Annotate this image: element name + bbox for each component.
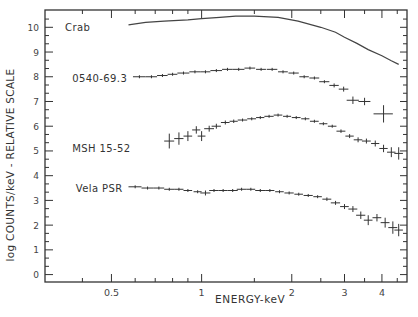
series-0540-69-3: [133, 67, 393, 123]
series-label: Vela PSR: [76, 183, 123, 194]
series-vela-psr: [128, 185, 402, 236]
series-msh-15-52: [164, 114, 403, 160]
x-tick-label: 2: [289, 287, 295, 298]
axis-tick-labels: 0.51234012345678910: [28, 23, 385, 298]
spectra-chart: 0.51234012345678910 Crab0540-69.3MSH 15-…: [0, 0, 418, 317]
x-tick-label: 0.5: [104, 287, 119, 298]
x-tick-label: 3: [341, 287, 347, 298]
data-series: [128, 16, 402, 236]
y-tick-label: 2: [33, 221, 39, 231]
y-axis-label: log COUNTS/keV - RELATIVE SCALE: [2, 65, 18, 265]
series-label: 0540-69.3: [72, 73, 127, 84]
y-tick-label: 5: [33, 146, 39, 156]
y-tick-label: 0: [33, 270, 39, 280]
y-tick-label: 4: [33, 171, 39, 181]
series-labels: Crab0540-69.3MSH 15-52Vela PSR: [65, 22, 131, 194]
y-tick-label: 7: [33, 97, 39, 107]
y-tick-label: 6: [33, 122, 39, 132]
x-axis-label: ENERGY-keV: [215, 293, 285, 305]
y-axis-label-text: log COUNTS/keV - RELATIVE SCALE: [4, 69, 16, 262]
y-tick-label: 1: [33, 245, 39, 255]
y-tick-label: 3: [33, 196, 39, 206]
spectrum-line: [129, 16, 399, 64]
y-tick-label: 8: [33, 72, 39, 82]
series-label: MSH 15-52: [72, 143, 130, 154]
y-tick-label: 9: [33, 48, 39, 58]
series-label: Crab: [65, 22, 90, 33]
y-tick-label: 10: [28, 23, 40, 33]
series-crab: [129, 16, 399, 64]
x-tick-label: 4: [379, 287, 385, 298]
x-tick-label: 1: [199, 287, 205, 298]
